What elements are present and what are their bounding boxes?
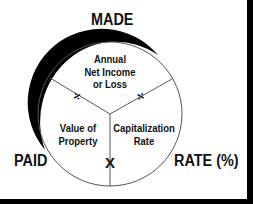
sector-br-line1: Capitalization	[112, 122, 177, 135]
sector-top-line3: or Loss	[76, 78, 144, 91]
sector-br-line2: Rate	[112, 135, 177, 148]
sector-top-line2: Net Income	[76, 66, 144, 79]
sector-capitalization-rate: Capitalization Rate	[112, 122, 177, 147]
label-made: MADE	[91, 12, 133, 28]
formula-circle-diagram	[0, 0, 253, 204]
sector-value-of-property: Value of Property	[53, 122, 103, 147]
diagram-frame: MADE PAID RATE (%) Annual Net Income or …	[0, 0, 253, 204]
frame-border-bottom	[0, 199, 253, 204]
multiply-icon: X	[105, 155, 115, 170]
sector-bl-line2: Property	[53, 135, 103, 148]
sector-bl-line1: Value of	[53, 122, 103, 135]
sector-annual-net-income: Annual Net Income or Loss	[76, 53, 144, 91]
frame-border-right	[247, 0, 253, 204]
label-paid: PAID	[14, 153, 47, 169]
label-rate-percent: RATE (%)	[174, 153, 239, 169]
sector-top-line1: Annual	[76, 53, 144, 66]
